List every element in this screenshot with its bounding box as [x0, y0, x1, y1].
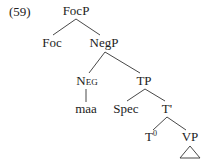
tree-branches: [0, 0, 210, 165]
vp-triangle-icon: [180, 146, 200, 158]
